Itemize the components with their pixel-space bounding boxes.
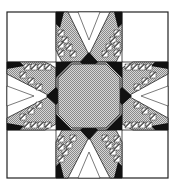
feathered-star-quilt-block [0,0,176,184]
center-octagon [58,64,120,128]
